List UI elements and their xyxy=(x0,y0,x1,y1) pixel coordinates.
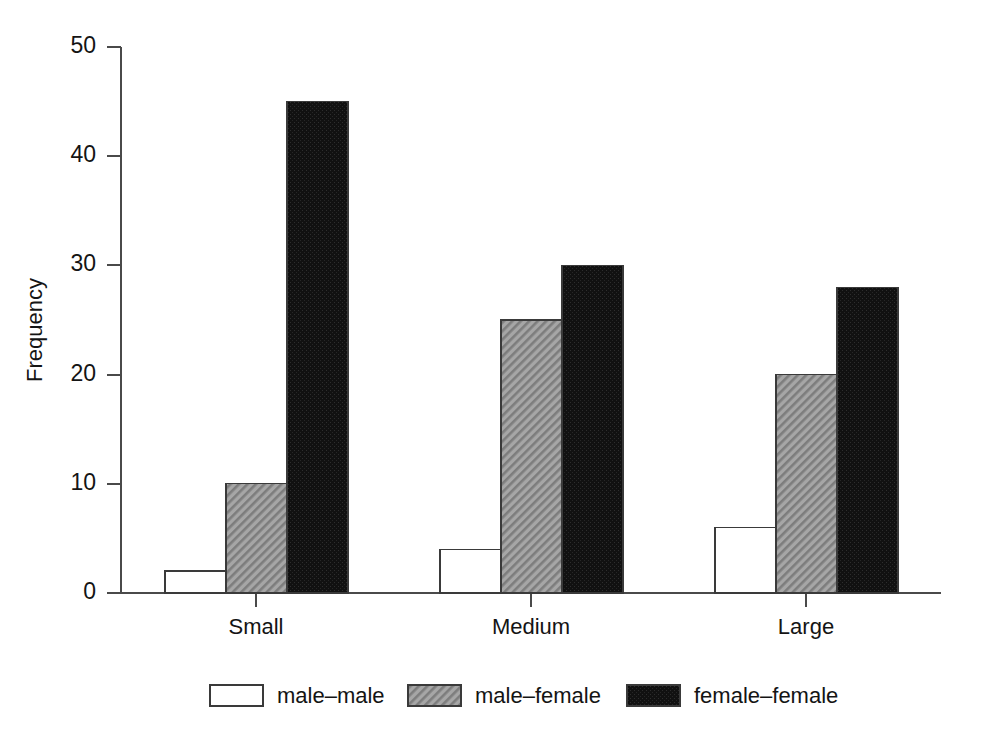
x-tick-label-large: Large xyxy=(778,614,834,639)
bar-small-male-male xyxy=(165,571,226,593)
bar-group-medium xyxy=(440,265,623,593)
legend: male–male male–female female–female xyxy=(210,683,838,708)
legend-item-male-female: male–female xyxy=(408,683,601,708)
bar-medium-male-female xyxy=(501,320,562,593)
y-tick-label-50: 50 xyxy=(70,32,96,58)
x-axis: Small Medium Large xyxy=(121,593,941,639)
legend-swatch-male-male xyxy=(210,685,263,706)
bar-group-large xyxy=(715,287,898,593)
bar-large-male-male xyxy=(715,527,776,593)
legend-swatch-male-female xyxy=(408,685,461,706)
x-tick-label-small: Small xyxy=(228,614,283,639)
bar-medium-female-female xyxy=(562,265,623,593)
y-axis: 50 40 30 20 10 0 Frequency xyxy=(22,32,121,604)
bar-large-male-female xyxy=(776,375,837,593)
y-tick-label-30: 30 xyxy=(70,250,96,276)
legend-swatch-female-female xyxy=(627,685,680,706)
y-tick-label-10: 10 xyxy=(70,469,96,495)
bar-small-female-female xyxy=(287,102,348,593)
y-axis-title: Frequency xyxy=(22,278,47,382)
y-tick-label-20: 20 xyxy=(70,360,96,386)
bar-large-female-female xyxy=(837,287,898,593)
legend-item-female-female: female–female xyxy=(627,683,838,708)
x-tick-label-medium: Medium xyxy=(492,614,570,639)
legend-item-male-male: male–male xyxy=(210,683,385,708)
bar-medium-male-male xyxy=(440,549,501,593)
legend-label-male-female: male–female xyxy=(475,683,601,708)
bar-group-small xyxy=(165,102,348,593)
bar-chart-figure: 50 40 30 20 10 0 Frequency Small Medium … xyxy=(0,0,982,743)
legend-label-female-female: female–female xyxy=(694,683,838,708)
chart-canvas: 50 40 30 20 10 0 Frequency Small Medium … xyxy=(0,0,982,743)
legend-label-male-male: male–male xyxy=(277,683,385,708)
bar-small-male-female xyxy=(226,484,287,593)
y-tick-label-40: 40 xyxy=(70,141,96,167)
y-tick-label-0: 0 xyxy=(83,578,96,604)
